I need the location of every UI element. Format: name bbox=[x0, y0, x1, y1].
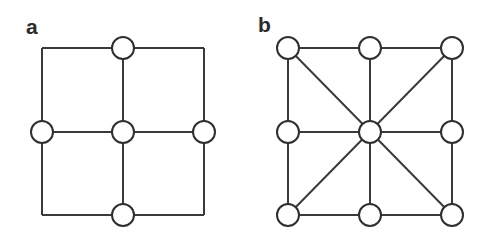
lattice-node-left bbox=[31, 121, 53, 143]
lattice-node-top-left bbox=[277, 37, 299, 59]
lattice-node-right bbox=[193, 121, 215, 143]
lattice-node-bottom bbox=[359, 204, 381, 226]
lattice-node-bottom bbox=[112, 204, 134, 226]
lattice-node-bottom-right bbox=[441, 204, 463, 226]
panel-b-lattice-diagram bbox=[240, 0, 481, 239]
lattice-node-right bbox=[441, 121, 463, 143]
lattice-node-center bbox=[359, 121, 381, 143]
lattice-node-top bbox=[112, 37, 134, 59]
lattice-node-bottom-left bbox=[277, 204, 299, 226]
lattice-node-top-right bbox=[441, 37, 463, 59]
panel-a: a bbox=[0, 0, 240, 239]
panel-a-lattice-diagram bbox=[0, 0, 241, 239]
lattice-node-left bbox=[277, 121, 299, 143]
figure-root: a b bbox=[0, 0, 481, 239]
lattice-node-center bbox=[112, 121, 134, 143]
panel-b: b bbox=[240, 0, 481, 239]
lattice-node-top bbox=[359, 37, 381, 59]
